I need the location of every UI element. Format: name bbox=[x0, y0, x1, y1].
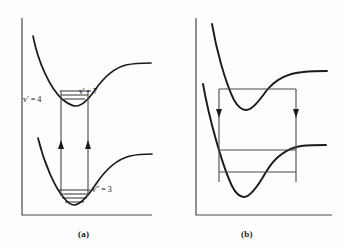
panel-b-arrow-down-right bbox=[293, 109, 299, 118]
diagram-canvas bbox=[0, 0, 342, 249]
label-upper-right-vprime: v′ = 7 bbox=[79, 87, 97, 96]
caption-panel-a: (a) bbox=[78, 229, 89, 239]
panel-a-arrow-up-left bbox=[58, 140, 64, 149]
panel-a-arrow-up-right bbox=[85, 140, 91, 149]
panel-a-axes bbox=[22, 18, 152, 215]
panel-b-lower-curve bbox=[203, 84, 326, 197]
panel-b bbox=[196, 18, 332, 215]
figure-container: v′ = 4 v′ = 7 v″ = 3 (a) (b) bbox=[0, 0, 342, 249]
panel-a-lower-curve bbox=[38, 138, 152, 205]
caption-panel-b: (b) bbox=[241, 229, 253, 239]
panel-a-lower-levels bbox=[59, 190, 90, 202]
panel-b-upper-curve bbox=[212, 24, 327, 110]
panel-a bbox=[22, 18, 152, 215]
panel-b-arrow-down-left bbox=[216, 109, 222, 118]
panel-a-transition-lines bbox=[61, 91, 88, 196]
label-lower-vdoubleprime: v″ = 3 bbox=[92, 185, 112, 194]
label-upper-left-vprime: v′ = 4 bbox=[23, 95, 41, 104]
